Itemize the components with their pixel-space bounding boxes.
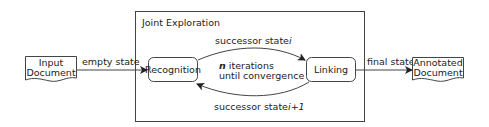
annotated-document-node: Annotated Document [413, 57, 464, 81]
annotated-document-label-2: Document [413, 67, 462, 78]
group-title: Joint Exploration [141, 17, 220, 28]
edge-label-final-state: final state [367, 56, 415, 67]
input-document-node: Input Document [26, 57, 77, 82]
edge-var-i-plus-1: i+1 [288, 101, 305, 112]
edge-successor-i: successor state i [198, 35, 305, 60]
edge-successor-i-plus-1: successor state i+1 [197, 82, 309, 112]
edge-empty-state: empty state [77, 56, 147, 70]
loop-note-line-2: until convergence [219, 70, 304, 81]
input-document-label-2: Document [26, 67, 75, 78]
edge-var-i: i [289, 35, 292, 46]
edge-label-successor-i-plus-1: successor state [214, 101, 288, 112]
recognition-label: Recognition [145, 64, 201, 75]
edge-label-empty-state: empty state [82, 56, 140, 67]
loop-note: n iterations until convergence [219, 60, 304, 81]
edge-label-successor-i: successor state [215, 35, 289, 46]
recognition-node: Recognition [145, 58, 201, 82]
diagram-canvas: Joint Exploration Input Document empty s… [0, 0, 489, 127]
linking-node: Linking [307, 58, 356, 82]
linking-label: Linking [314, 64, 348, 75]
